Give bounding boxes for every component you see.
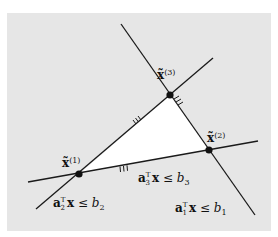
vertex-1 [75,170,82,177]
polyhedron-diagram: x̃(1) x̃(2) x̃(3) aT2x ≤ b2 aT3x ≤ b3 aT… [0,0,278,237]
constraint-label-3: aT3x ≤ b3 [138,171,190,187]
constraint-label-2: aT2x ≤ b2 [53,196,105,212]
vertex-2 [205,146,212,153]
vertex-3 [166,91,173,98]
constraint-label-1: aT1x ≤ b1 [175,201,227,217]
